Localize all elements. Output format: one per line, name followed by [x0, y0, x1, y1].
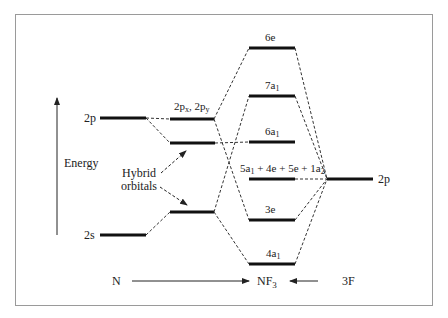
f-2p-label: 2p [378, 172, 390, 186]
n-atom-label: N [112, 274, 121, 288]
nf3-levels: 6e 7a1 6a1 5a1 + 4e + 5e + 1a2 3e 4a1 [240, 31, 325, 264]
hybrid-2px-2py-label: 2px, 2py [174, 100, 210, 114]
energy-axis-label: Energy [64, 156, 98, 170]
f-atom-levels: 2p [327, 172, 390, 186]
n-correlation-lines [146, 48, 249, 264]
n-2s-label: 2s [84, 228, 95, 242]
hybrid-pointer-upper [161, 151, 186, 173]
nf3-mo-diagram: Energy 2p 2s 2px, 2py Hybrid orbitals [0, 0, 448, 318]
hybrid-pointer-lower [160, 187, 187, 205]
mo-4a1-label: 4a1 [266, 247, 280, 261]
n-2p-label: 2p [84, 111, 96, 125]
species-labels: N NF3 3F [112, 274, 355, 290]
mo-nonbonding-label: 5a1 + 4e + 5e + 1a2 [240, 162, 325, 176]
nf3-label: NF3 [257, 274, 277, 290]
mo-7a1-label: 7a1 [265, 79, 279, 93]
f-atoms-label: 3F [342, 274, 355, 288]
hybrid-orbitals-label: Hybrid orbitals [121, 166, 159, 193]
f-correlation-lines [295, 48, 327, 264]
mo-3e-label: 3e [265, 203, 276, 215]
mo-6e-label: 6e [265, 31, 276, 43]
mo-6a1-label: 6a1 [265, 125, 279, 139]
